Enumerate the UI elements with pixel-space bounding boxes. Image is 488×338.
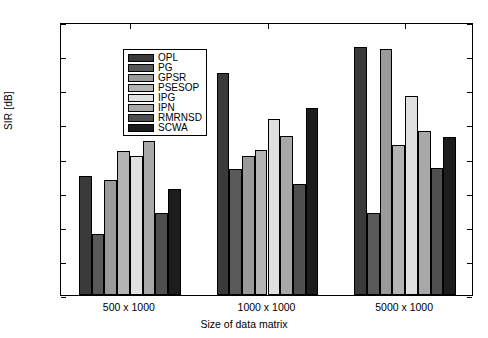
bar-opl-1 bbox=[217, 73, 230, 295]
bar-ipg-0 bbox=[130, 156, 143, 295]
x-tick-mark bbox=[405, 24, 406, 29]
bar-ipn-1 bbox=[280, 136, 293, 295]
bar-pg-2 bbox=[367, 213, 380, 295]
bar-scwa-1 bbox=[306, 108, 319, 295]
y-tick-mark bbox=[467, 229, 472, 230]
bar-ipg-2 bbox=[405, 96, 418, 295]
legend-label: SCWA bbox=[158, 123, 188, 133]
bar-psesop-0 bbox=[117, 151, 130, 295]
y-tick-mark bbox=[61, 24, 66, 25]
legend-swatch-rmrnsd bbox=[128, 114, 154, 122]
legend-swatch-opl bbox=[128, 54, 154, 62]
y-axis-label: SIR [dB] bbox=[3, 116, 14, 130]
legend-swatch-pg bbox=[128, 64, 154, 72]
legend-swatch-gpsr bbox=[128, 74, 154, 82]
y-tick-mark bbox=[467, 297, 472, 298]
y-tick-mark bbox=[61, 195, 66, 196]
x-tick-mark bbox=[268, 24, 269, 29]
y-tick-mark bbox=[61, 229, 66, 230]
bar-rmrnsd-0 bbox=[155, 213, 168, 295]
legend-swatch-psesop bbox=[128, 84, 154, 92]
y-tick-mark bbox=[467, 195, 472, 196]
x-category-label: 1000 x 1000 bbox=[238, 301, 296, 313]
y-tick-mark bbox=[61, 58, 66, 59]
y-tick-mark bbox=[467, 126, 472, 127]
legend-item-scwa: SCWA bbox=[128, 123, 202, 133]
y-tick-mark bbox=[467, 161, 472, 162]
y-tick-mark bbox=[61, 126, 66, 127]
y-tick-mark bbox=[61, 161, 66, 162]
bar-rmrnsd-1 bbox=[293, 184, 306, 295]
bar-psesop-1 bbox=[255, 150, 268, 295]
y-tick-mark bbox=[61, 297, 66, 298]
y-tick-mark bbox=[467, 92, 472, 93]
plot-area: OPLPGGPSRPSESOPIPGIPNRMRNSDSCWA bbox=[60, 23, 473, 296]
y-tick-mark bbox=[467, 24, 472, 25]
bar-opl-2 bbox=[354, 47, 367, 295]
x-tick-mark bbox=[130, 24, 131, 29]
y-tick-mark bbox=[61, 92, 66, 93]
bar-gpsr-1 bbox=[242, 156, 255, 295]
y-tick-mark bbox=[467, 263, 472, 264]
bar-scwa-2 bbox=[443, 137, 456, 295]
bar-psesop-2 bbox=[392, 145, 405, 295]
bar-scwa-0 bbox=[168, 189, 181, 295]
bar-ipn-2 bbox=[418, 131, 431, 295]
y-tick-mark bbox=[61, 263, 66, 264]
bar-gpsr-2 bbox=[380, 49, 393, 295]
bar-pg-0 bbox=[92, 234, 105, 295]
bar-pg-1 bbox=[229, 169, 242, 295]
legend-swatch-ipn bbox=[128, 104, 154, 112]
x-category-label: 500 x 1000 bbox=[103, 301, 155, 313]
bar-ipg-1 bbox=[268, 119, 281, 295]
legend: OPLPGGPSRPSESOPIPGIPNRMRNSDSCWA bbox=[123, 49, 207, 136]
bar-gpsr-0 bbox=[104, 180, 117, 295]
legend-swatch-ipg bbox=[128, 94, 154, 102]
figure: SIR [dB] 0510152025303540 OPLPGGPSRPSESO… bbox=[0, 0, 488, 338]
legend-swatch-scwa bbox=[128, 124, 154, 132]
bar-opl-0 bbox=[79, 176, 92, 295]
y-tick-mark bbox=[467, 58, 472, 59]
bar-rmrnsd-2 bbox=[431, 168, 444, 295]
x-axis-label: Size of data matrix bbox=[0, 318, 488, 330]
x-category-label: 5000 x 1000 bbox=[375, 301, 433, 313]
bar-ipn-0 bbox=[143, 141, 156, 295]
